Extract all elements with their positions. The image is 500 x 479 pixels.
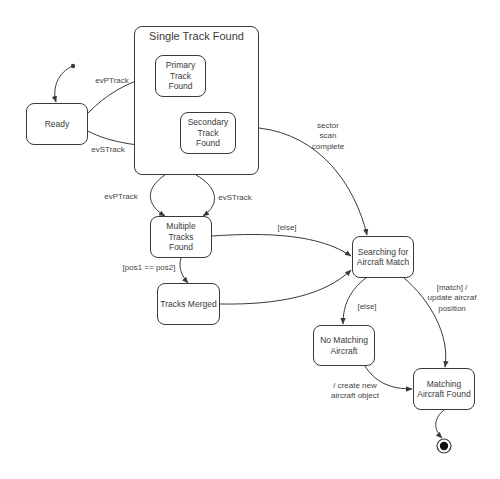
state-no-matching-aircraft[interactable]: No Matching Aircraft (313, 325, 375, 366)
transition-composite-to-multiple-s[interactable] (196, 175, 215, 216)
state-searching-for-aircraft-match[interactable]: Searching for Aircraft Match (352, 236, 414, 278)
label-composite-to-multiple-p: evPTrack (101, 192, 141, 202)
label-searching-to-match: [match] / update aircraf position (418, 283, 486, 314)
transition-init-to-ready[interactable] (55, 66, 73, 102)
state-ready[interactable]: Ready (26, 103, 88, 145)
label-searching-to-no-match: [else] (352, 302, 382, 312)
label-composite-to-searching: sector scan complete (303, 121, 353, 152)
transition-multiple-to-merged[interactable] (180, 258, 188, 283)
initial-state-dot (71, 64, 75, 68)
transition-multiple-to-searching[interactable] (212, 234, 351, 256)
label-no-match-to-match: / create new aircraft object (322, 381, 388, 402)
transition-composite-to-multiple-p[interactable] (150, 175, 165, 216)
composite-state-title: Single Track Found (135, 30, 258, 42)
transition-match-to-final[interactable] (436, 410, 444, 438)
label-multiple-to-searching: [else] (272, 223, 302, 233)
state-tracks-merged[interactable]: Tracks Merged (157, 283, 220, 325)
transition-merged-to-searching[interactable] (220, 270, 351, 304)
transition-searching-to-no-match[interactable] (343, 278, 366, 324)
final-state (437, 439, 451, 453)
label-ready-to-secondary: evSTrack (88, 145, 128, 155)
state-multiple-tracks-found[interactable]: Multiple Tracks Found (150, 216, 212, 258)
label-multiple-to-merged: [pos1 == pos2] (118, 263, 180, 273)
state-secondary-track-found[interactable]: Secondary Track Found (180, 112, 236, 154)
label-ready-to-primary: evPTrack (92, 76, 132, 86)
state-primary-track-found[interactable]: Primary Track Found (155, 55, 206, 97)
label-composite-to-multiple-s: evSTrack (215, 193, 255, 203)
state-matching-aircraft-found[interactable]: Matching Aircraft Found (413, 368, 475, 410)
